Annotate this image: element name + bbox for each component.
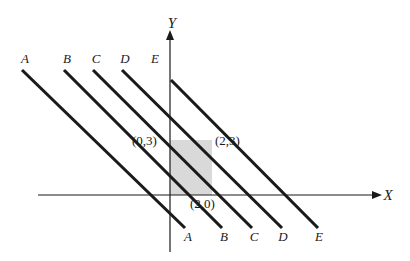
line-label-bottom-b: B — [220, 229, 228, 244]
y-axis-label: Y — [168, 15, 178, 31]
line-label-top-b: B — [63, 51, 71, 66]
line-c — [93, 70, 252, 228]
line-label-bottom-c: C — [250, 229, 259, 244]
line-label-bottom-a: A — [183, 229, 192, 244]
point-label-0-3: (0,3) — [132, 133, 157, 148]
line-label-bottom-e: E — [314, 229, 323, 244]
line-label-top-d: D — [119, 51, 130, 66]
line-diagram: Y X A B C D E A B C D E (0,3) (2,3) (2,0… — [0, 0, 410, 261]
point-label-2-0: (2,0) — [190, 196, 215, 211]
figure-canvas: Y X A B C D E A B C D E (0,3) (2,3) (2,0… — [0, 0, 410, 261]
line-label-top-a: A — [20, 51, 29, 66]
line-label-bottom-d: D — [277, 229, 288, 244]
point-label-2-3: (2,3) — [215, 133, 240, 148]
y-axis-arrowhead — [166, 30, 174, 40]
x-axis-label: X — [382, 187, 393, 203]
line-label-top-e: E — [150, 51, 159, 66]
x-axis-arrowhead — [372, 191, 382, 199]
line-label-top-c: C — [92, 51, 101, 66]
line-a — [22, 70, 185, 228]
